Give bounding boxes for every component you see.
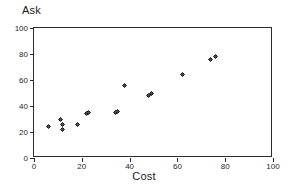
- data-point: [59, 118, 62, 121]
- plot-frame: 020406080100020406080100: [33, 27, 272, 157]
- data-point: [61, 123, 64, 126]
- plot-area: [34, 28, 271, 156]
- y-axis-tick-label: 60: [19, 76, 28, 85]
- y-axis-tick-label: 20: [19, 128, 28, 137]
- y-axis-title: Ask: [22, 4, 41, 16]
- y-axis-tick: [30, 28, 34, 29]
- y-axis-tick: [30, 106, 34, 107]
- data-point: [209, 58, 212, 61]
- data-point: [76, 123, 79, 126]
- data-point: [123, 84, 126, 87]
- y-axis-tick-label: 80: [19, 50, 28, 59]
- data-point: [181, 73, 184, 76]
- data-point: [150, 92, 153, 95]
- y-axis-tick: [30, 54, 34, 55]
- data-point: [116, 110, 119, 113]
- y-axis-tick: [30, 132, 34, 133]
- data-point: [87, 111, 90, 114]
- data-point: [47, 125, 50, 128]
- data-point: [214, 55, 217, 58]
- data-point: [61, 128, 64, 131]
- x-axis-title: Cost: [0, 170, 288, 182]
- y-axis-tick-label: 0: [24, 154, 28, 163]
- scatter-plot-screenshot: Ask 020406080100020406080100 Cost: [0, 0, 288, 187]
- y-axis-tick-label: 100: [15, 24, 28, 33]
- y-axis-tick-label: 40: [19, 102, 28, 111]
- y-axis-tick: [30, 80, 34, 81]
